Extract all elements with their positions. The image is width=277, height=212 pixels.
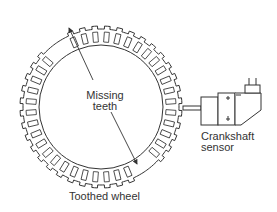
sensor-shaft <box>183 106 201 110</box>
missing-teeth-label: Missing teeth <box>80 90 130 111</box>
sensor-label-line1: Crankshaft <box>201 131 254 141</box>
sensor-label-line2: sensor <box>201 142 254 152</box>
sensor-body-left <box>201 97 218 125</box>
sensor-grey-strip <box>235 93 241 96</box>
crankshaft-sensor-label: Crankshaft sensor <box>201 131 254 152</box>
missing-label-line2: teeth <box>80 101 130 111</box>
sensor-body-right <box>235 93 261 125</box>
crankshaft-diagram <box>0 0 277 212</box>
missing-label-line1: Missing <box>80 90 130 100</box>
toothed-wheel-label: Toothed wheel <box>69 191 140 201</box>
crankshaft-sensor <box>183 78 261 125</box>
connector-block <box>245 85 260 93</box>
